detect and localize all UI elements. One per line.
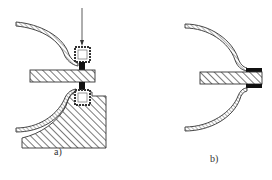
- panel-b-label: b): [210, 153, 218, 164]
- lower-joint-strip: [246, 84, 262, 88]
- upper-contact-block: [79, 62, 85, 70]
- lower-curved-shell-b: [185, 88, 247, 131]
- diagram-canvas: [0, 0, 272, 180]
- lower-contact-block: [79, 82, 85, 90]
- panel-a: [16, 8, 106, 148]
- upper-joint-strip: [246, 68, 262, 72]
- upper-curved-shell: [16, 22, 78, 66]
- panel-a-label: a): [54, 146, 62, 157]
- load-arrow-icon: [80, 8, 84, 46]
- panel-b: [185, 24, 262, 131]
- upper-curved-shell-b: [185, 24, 247, 71]
- hatched-plate-b: [200, 72, 262, 84]
- hatched-plate: [30, 70, 95, 82]
